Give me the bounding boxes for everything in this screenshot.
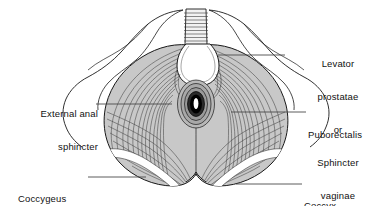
label-puborectalis: Puborectalis	[308, 107, 392, 162]
label-coccygeus: Coccygeus	[18, 171, 88, 206]
label-levator-line1: Levator	[286, 58, 390, 69]
label-extanal-line2: sphincter	[6, 141, 98, 152]
label-coccyx-line1: Coccyx	[304, 200, 364, 206]
label-external-anal-sphincter: External anal sphincter	[6, 86, 98, 174]
label-coccygeus-line1: Coccygeus	[18, 193, 88, 204]
label-coccyx: Coccyx	[304, 178, 364, 206]
anatomical-figure: Levator prostatae or Sphincter vaginae E…	[0, 0, 392, 206]
label-puborectalis-line1: Puborectalis	[308, 129, 392, 140]
label-levator-line2: prostatae	[286, 91, 390, 102]
anal-sphincter-rings	[178, 80, 215, 128]
perineal-membrane-hatching	[184, 9, 208, 45]
label-extanal-line1: External anal	[6, 108, 98, 119]
